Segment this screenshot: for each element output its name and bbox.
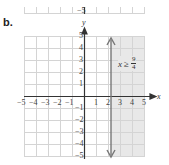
y-tick: 5 [79, 32, 83, 40]
y-tick: −2 [75, 116, 84, 124]
y-tick: 3 [79, 56, 83, 64]
x-tick: −1 [65, 99, 74, 107]
y-tick: −3 [75, 128, 84, 136]
y-tick: 4 [79, 44, 83, 52]
x-tick: −3 [41, 99, 50, 107]
inequality-operator: ≥ [124, 59, 129, 69]
fraction-denominator: 4 [132, 64, 136, 71]
x-tick: −4 [29, 99, 38, 107]
y-tick: −4 [75, 140, 84, 148]
x-tick: 1 [94, 99, 98, 107]
x-tick: 5 [142, 99, 146, 107]
x-tick: 3 [118, 99, 122, 107]
y-tick: 1 [79, 80, 83, 88]
x-axis-label: x [157, 92, 161, 101]
inequality-annotation: x ≥ 9 4 [118, 56, 136, 71]
y-tick: −5 [75, 152, 84, 160]
y-tick: −1 [75, 104, 84, 112]
x-tick: 4 [130, 99, 134, 107]
y-tick: 2 [79, 68, 83, 76]
x-tick: 2 [106, 99, 110, 107]
x-tick: −5 [17, 99, 26, 107]
y-axis-label: y [82, 18, 86, 27]
fraction: 9 4 [131, 56, 137, 71]
inequality-variable: x [118, 59, 122, 69]
x-tick: −2 [53, 99, 62, 107]
